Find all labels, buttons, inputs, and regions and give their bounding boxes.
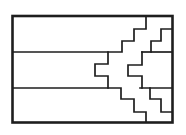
flag-frame <box>13 16 173 123</box>
left-notch <box>95 52 108 88</box>
right-notch <box>128 52 142 88</box>
top-right-staircase <box>151 29 172 52</box>
bottom-band-top-edge <box>13 88 146 122</box>
top-band-bottom-edge <box>13 16 146 52</box>
bottom-right-staircase <box>150 88 172 112</box>
flag-outline-diagram <box>0 0 186 135</box>
band-dividers <box>13 16 172 122</box>
